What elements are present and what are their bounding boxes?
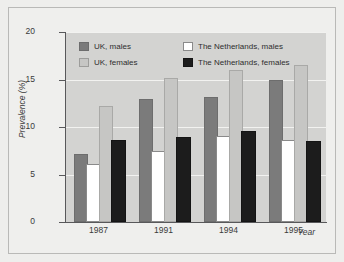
gridline-20	[66, 32, 326, 33]
legend-swatch-icon-nl-f	[183, 58, 193, 67]
y-tick-label-20: 20	[9, 26, 35, 36]
bar-1991-nl-f	[176, 137, 191, 222]
bar-1994-nl-f	[241, 131, 256, 222]
legend-item-uk-m: UK, males	[79, 42, 183, 51]
legend-item-uk-f: UK, females	[79, 58, 183, 67]
legend-item-nl-m: The Netherlands, males	[183, 42, 311, 51]
legend-item-nl-f: The Netherlands, females	[183, 58, 311, 67]
x-axis-line	[65, 222, 327, 223]
chart-legend: UK, malesThe Netherlands, malesUK, femal…	[79, 38, 311, 70]
y-tick-mark-15	[59, 80, 65, 81]
legend-label: UK, males	[94, 42, 131, 51]
bar-1987-nl-f	[111, 140, 126, 222]
y-tick-mark-0	[59, 222, 65, 223]
legend-swatch-icon-nl-m	[183, 42, 193, 51]
y-tick-mark-20	[59, 32, 65, 33]
legend-label: The Netherlands, females	[198, 58, 290, 67]
x-tick-label-1991: 1991	[154, 225, 173, 235]
legend-swatch-icon-uk-f	[79, 58, 89, 67]
y-tick-label-15: 15	[9, 74, 35, 84]
legend-label: The Netherlands, males	[198, 42, 283, 51]
y-axis-title: Prevalence (%)	[17, 44, 27, 174]
y-tick-mark-10	[59, 127, 65, 128]
x-axis-title: Year	[298, 227, 316, 237]
bar-1995-nl-f	[306, 141, 321, 222]
gridline-15	[66, 80, 326, 81]
chart-frame: Prevalence (%) 05101520 1987199119941995…	[8, 7, 336, 254]
legend-label: UK, females	[94, 58, 138, 67]
y-tick-label-0: 0	[9, 216, 35, 226]
x-tick-label-1987: 1987	[89, 225, 108, 235]
legend-swatch-icon-uk-m	[79, 42, 89, 51]
y-tick-mark-5	[59, 175, 65, 176]
y-tick-label-10: 10	[9, 121, 35, 131]
y-tick-label-5: 5	[9, 169, 35, 179]
x-tick-label-1994: 1994	[219, 225, 238, 235]
chart-page: Prevalence (%) 05101520 1987199119941995…	[0, 0, 344, 262]
y-axis-line	[65, 32, 66, 223]
